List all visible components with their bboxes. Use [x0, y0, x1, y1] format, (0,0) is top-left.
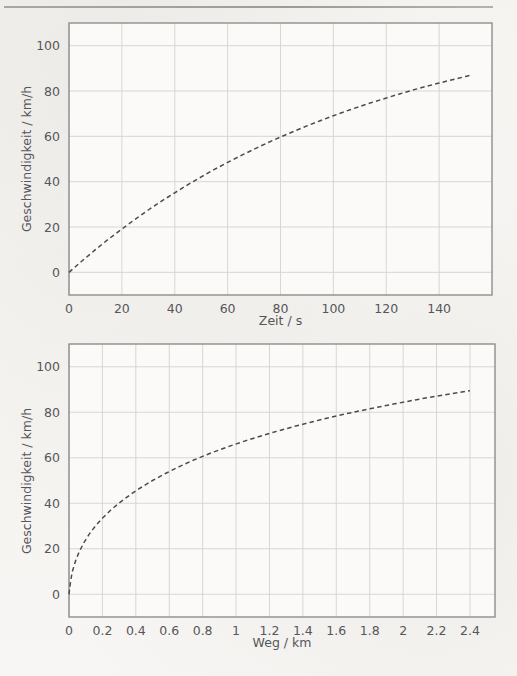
- x-tick-label: 40: [167, 301, 183, 316]
- x-tick-label: 0.6: [159, 623, 179, 638]
- plot-area-background: [69, 344, 495, 617]
- speed-vs-distance-chart-svg: 00.20.40.60.811.21.41.61.822.22.40204060…: [0, 336, 517, 666]
- y-tick-label: 100: [36, 38, 60, 53]
- y-tick-label: 0: [52, 587, 60, 602]
- y-tick-label: 20: [44, 220, 60, 235]
- x-tick-label: 60: [220, 301, 236, 316]
- x-tick-label: 0.8: [193, 623, 213, 638]
- x-tick-label: 1.6: [326, 623, 346, 638]
- x-tick-label: 2.2: [427, 623, 447, 638]
- x-axis-title: Weg / km: [253, 635, 312, 650]
- x-axis-title: Zeit / s: [259, 313, 302, 328]
- header-rule: [4, 6, 493, 8]
- x-tick-label: 140: [427, 301, 451, 316]
- x-tick-label: 2: [399, 623, 407, 638]
- y-tick-label: 40: [44, 496, 60, 511]
- x-tick-label: 1: [232, 623, 240, 638]
- x-tick-label: 120: [374, 301, 398, 316]
- y-tick-labels: 020406080100: [36, 359, 60, 602]
- x-tick-label: 0.4: [126, 623, 146, 638]
- y-tick-label: 20: [44, 541, 60, 556]
- y-tick-label: 100: [36, 359, 60, 374]
- y-tick-label: 60: [44, 450, 60, 465]
- y-tick-label: 60: [44, 129, 60, 144]
- y-tick-label: 80: [44, 84, 60, 99]
- speed-vs-time-chart: 020406080100120140020406080100Zeit / sGe…: [0, 14, 517, 336]
- x-tick-label: 0.2: [92, 623, 112, 638]
- y-axis-title: Geschwindigkeit / km/h: [19, 408, 34, 554]
- x-tick-label: 0: [65, 623, 73, 638]
- x-tick-label: 1.8: [360, 623, 380, 638]
- y-tick-label: 40: [44, 174, 60, 189]
- y-tick-label: 0: [52, 265, 60, 280]
- speed-vs-distance-chart: 00.20.40.60.811.21.41.61.822.22.40204060…: [0, 336, 517, 666]
- speed-vs-time-chart-svg: 020406080100120140020406080100Zeit / sGe…: [0, 14, 517, 336]
- x-tick-label: 0: [65, 301, 73, 316]
- x-tick-label: 2.4: [460, 623, 480, 638]
- x-tick-label: 20: [114, 301, 130, 316]
- y-axis-title: Geschwindigkeit / km/h: [19, 86, 34, 232]
- x-tick-label: 100: [321, 301, 345, 316]
- y-tick-labels: 020406080100: [36, 38, 60, 280]
- y-tick-label: 80: [44, 405, 60, 420]
